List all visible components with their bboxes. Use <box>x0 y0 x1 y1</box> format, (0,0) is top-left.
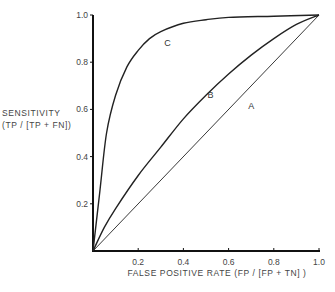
roc-curves <box>93 15 319 251</box>
x-tick-label: 1.0 <box>313 257 325 267</box>
y-axis-title-line1: SENSITIVITY <box>2 108 61 118</box>
x-tick-label: 0.6 <box>223 257 235 267</box>
curve-labels: ABC <box>164 38 254 112</box>
y-tick-label: 1.0 <box>76 10 88 20</box>
curve-label-b: B <box>208 90 214 100</box>
y-axis-title-line2: (TP / [TP + FN]) <box>2 120 72 130</box>
x-tick-label: 0.4 <box>177 257 189 267</box>
x-tick-label: 0.2 <box>132 257 144 267</box>
x-axis-title: FALSE POSITIVE RATE (FP / [FP + TN] ) <box>127 268 306 278</box>
y-tick-label: 0.8 <box>76 57 88 67</box>
y-tick-label: 0.2 <box>76 199 88 209</box>
y-tick-label: 0.4 <box>76 152 88 162</box>
curve-label-a: A <box>248 101 254 111</box>
roc-chart: 0.20.40.60.81.00.20.40.60.81.0 ABC SENSI… <box>0 0 335 292</box>
curve-label-c: C <box>164 38 171 48</box>
x-tick-label: 0.8 <box>268 257 280 267</box>
curve-a <box>93 15 319 251</box>
y-tick-label: 0.6 <box>76 104 88 114</box>
